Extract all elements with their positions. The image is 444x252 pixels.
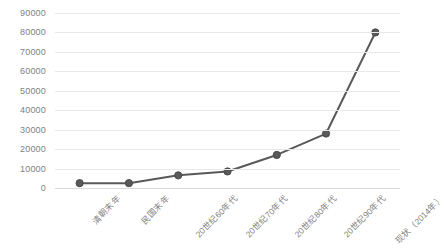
y-axis-tick-label: 70000 — [20, 47, 46, 57]
gridline — [55, 130, 400, 131]
data-point-marker[interactable] — [76, 180, 83, 187]
x-axis-tick-label: 现状（2014年） — [392, 192, 444, 246]
y-axis-tick-label: 40000 — [20, 105, 46, 115]
series-layer — [55, 13, 400, 188]
gridline — [55, 32, 400, 33]
y-axis-tick-label: 80000 — [20, 27, 46, 37]
plot-area — [55, 13, 400, 188]
data-point-marker[interactable] — [125, 180, 132, 187]
data-point-marker[interactable] — [273, 151, 280, 158]
x-axis-tick-label: 清朝末年 — [88, 192, 122, 226]
y-axis-tick-label: 50000 — [20, 86, 46, 96]
gridline — [55, 71, 400, 72]
series-line — [80, 32, 376, 183]
gridline — [55, 52, 400, 53]
y-axis-tick-label: 10000 — [20, 164, 46, 174]
y-axis: 0100002000030000400005000060000700008000… — [0, 0, 52, 252]
y-axis-tick-label: 30000 — [20, 125, 46, 135]
gridline — [55, 91, 400, 92]
y-axis-tick-label: 20000 — [20, 144, 46, 154]
data-point-marker[interactable] — [175, 172, 182, 179]
x-axis: 清朝末年民国末年20世纪60年代20世纪70年代20世纪80年代20世纪90年代… — [55, 188, 400, 252]
gridline — [55, 169, 400, 170]
y-axis-tick-label: 60000 — [20, 66, 46, 76]
x-axis-tick-label: 20世纪80年代 — [291, 192, 338, 239]
x-axis-tick-label: 20世纪70年代 — [242, 192, 289, 239]
gridline — [55, 13, 400, 14]
y-axis-tick-label: 90000 — [20, 8, 46, 18]
x-axis-tick-label: 20世纪90年代 — [340, 192, 387, 239]
y-axis-tick-label: 0 — [41, 183, 46, 193]
gridline — [55, 149, 400, 150]
gridline — [55, 110, 400, 111]
x-axis-tick-label: 民国末年 — [137, 192, 171, 226]
x-axis-tick-label: 20世纪60年代 — [192, 192, 239, 239]
data-point-marker[interactable] — [322, 130, 329, 137]
